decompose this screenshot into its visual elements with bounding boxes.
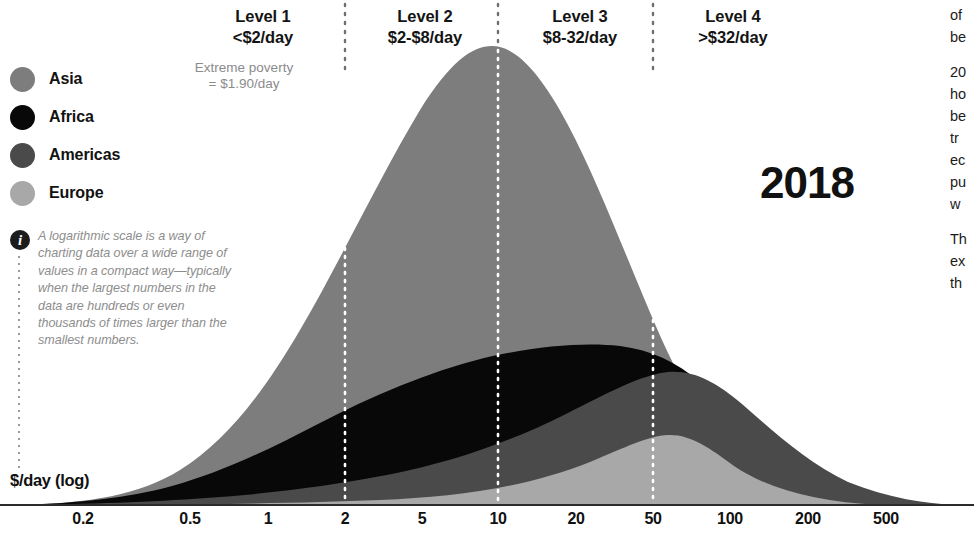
- side-text-column: ofbe 20hobetrecpuw Thexth: [950, 4, 974, 307]
- x-tick-3: 2: [341, 510, 350, 528]
- level-4-range: >$32/day: [660, 27, 806, 48]
- level-header-2: Level 2 $2-$8/day: [352, 6, 498, 48]
- legend-swatch-americas: [10, 143, 35, 168]
- legend-swatch-africa: [10, 105, 35, 130]
- level-2-name: Level 2: [397, 7, 452, 25]
- info-note-text: A logarithmic scale is a way of charting…: [38, 228, 240, 350]
- extreme-poverty-line-1: Extreme poverty: [148, 60, 340, 76]
- legend-label-europe: Europe: [49, 184, 104, 202]
- legend-label-asia: Asia: [49, 70, 82, 88]
- legend: Asia Africa Americas Europe: [10, 60, 160, 212]
- side-paragraph-3: Thexth: [950, 228, 974, 294]
- legend-item-asia[interactable]: Asia: [10, 60, 160, 98]
- legend-item-europe[interactable]: Europe: [10, 174, 160, 212]
- year-label: 2018: [760, 158, 854, 208]
- infographic-root: Level 1 <$2/day Level 2 $2-$8/day Level …: [0, 0, 974, 536]
- side-paragraph-1: ofbe: [950, 4, 974, 48]
- legend-item-africa[interactable]: Africa: [10, 98, 160, 136]
- x-tick-10: 500: [873, 510, 899, 528]
- level-1-name: Level 1: [235, 7, 290, 25]
- level-1-range: <$2/day: [178, 27, 348, 48]
- x-tick-1: 0.5: [179, 510, 200, 528]
- legend-swatch-europe: [10, 181, 35, 206]
- x-tick-9: 200: [795, 510, 821, 528]
- side-paragraph-2: 20hobetrecpuw: [950, 61, 974, 215]
- legend-item-americas[interactable]: Americas: [10, 136, 160, 174]
- legend-label-americas: Americas: [49, 146, 120, 164]
- info-icon: i: [10, 230, 30, 250]
- legend-swatch-asia: [10, 67, 35, 92]
- extreme-poverty-line-2: = $1.90/day: [148, 76, 340, 92]
- info-note: i A logarithmic scale is a way of charti…: [10, 228, 240, 350]
- legend-label-africa: Africa: [49, 108, 94, 126]
- x-tick-4: 5: [418, 510, 427, 528]
- x-axis-title: $/day (log): [8, 470, 92, 491]
- x-tick-6: 20: [567, 510, 584, 528]
- x-tick-5: 10: [489, 510, 506, 528]
- level-2-range: $2-$8/day: [352, 27, 498, 48]
- level-3-range: $8-32/day: [508, 27, 652, 48]
- x-tick-7: 50: [644, 510, 661, 528]
- level-header-1: Level 1 <$2/day: [178, 6, 348, 48]
- x-tick-8: 100: [717, 510, 743, 528]
- x-axis-line: [0, 504, 974, 506]
- x-tick-0: 0.2: [72, 510, 93, 528]
- level-header-3: Level 3 $8-32/day: [508, 6, 652, 48]
- level-4-name: Level 4: [705, 7, 760, 25]
- x-tick-2: 1: [264, 510, 273, 528]
- level-header-4: Level 4 >$32/day: [660, 6, 806, 48]
- level-3-name: Level 3: [552, 7, 607, 25]
- extreme-poverty-note: Extreme poverty = $1.90/day: [148, 60, 340, 93]
